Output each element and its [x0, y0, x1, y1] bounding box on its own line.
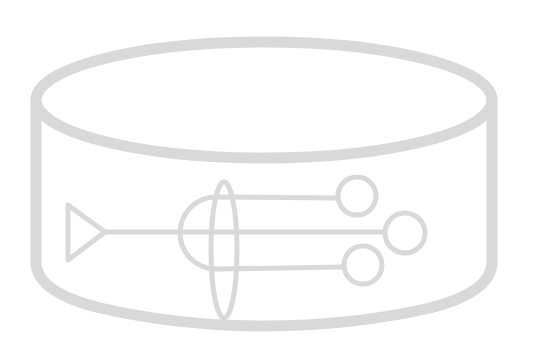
upper-node-circle-icon — [338, 177, 376, 215]
lower-branch-line — [216, 267, 344, 269]
vertical-ellipse — [211, 182, 237, 318]
cylinder-circuit-icon — [0, 0, 540, 355]
illustration-canvas: Light gray line-art icon of a cylinder c… — [0, 0, 540, 355]
upper-branch-line — [216, 197, 338, 198]
middle-node-circle-icon — [385, 213, 425, 253]
triangle-icon — [68, 205, 105, 260]
lower-node-circle-icon — [344, 246, 382, 284]
cylinder-body — [36, 100, 492, 326]
cylinder-top-ellipse — [36, 42, 492, 158]
